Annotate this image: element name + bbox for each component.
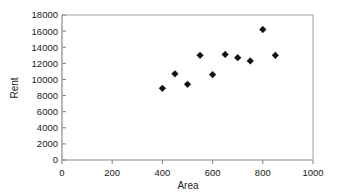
- y-tick-label: 12000: [32, 58, 58, 69]
- y-tick-label: 0: [53, 154, 58, 165]
- x-tick-label: 0: [59, 167, 64, 178]
- y-tick-label: 2000: [37, 138, 58, 149]
- y-tick-label: 10000: [32, 74, 58, 85]
- x-tick-label: 400: [154, 167, 170, 178]
- y-tick-label: 18000: [32, 9, 58, 20]
- scatter-chart: 0200040006000800010000120001400016000180…: [0, 0, 341, 194]
- x-tick-label: 600: [205, 167, 221, 178]
- chart-canvas: 0200040006000800010000120001400016000180…: [0, 0, 341, 194]
- x-tick-label: 800: [255, 167, 271, 178]
- y-tick-label: 4000: [37, 122, 58, 133]
- y-axis-title: Rent: [9, 77, 20, 98]
- x-tick-label: 200: [104, 167, 120, 178]
- x-tick-label: 1000: [302, 167, 323, 178]
- x-axis-title: Area: [177, 180, 199, 191]
- y-tick-label: 16000: [32, 26, 58, 37]
- y-tick-label: 6000: [37, 106, 58, 117]
- y-tick-label: 8000: [37, 90, 58, 101]
- y-tick-label: 14000: [32, 42, 58, 53]
